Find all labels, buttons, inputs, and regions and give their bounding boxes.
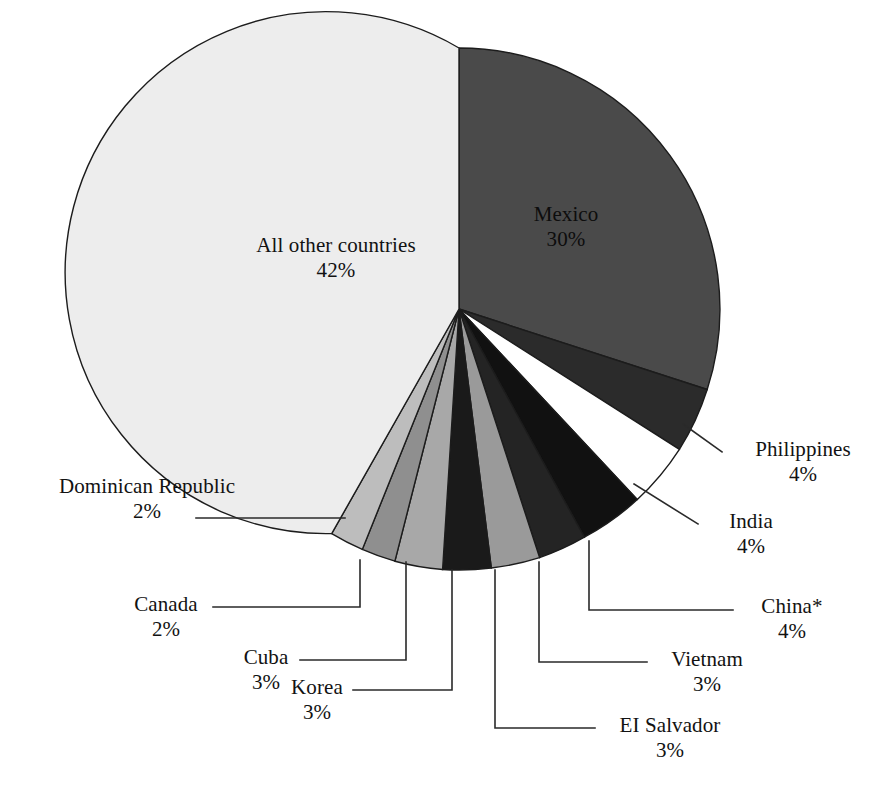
slice-label-canada-pct: 2% xyxy=(122,617,210,642)
slice-label-china: China* 4% xyxy=(740,594,844,644)
slice-label-cuba-name: Cuba xyxy=(236,645,296,670)
leader-line-canada xyxy=(213,560,360,607)
slice-label-china-pct: 4% xyxy=(740,619,844,644)
slice-label-philippines-name: Philippines xyxy=(730,437,876,462)
slice-label-mexico: Mexico 30% xyxy=(496,202,636,252)
slice-label-canada-name: Canada xyxy=(122,592,210,617)
leader-line-korea xyxy=(353,570,452,690)
slice-label-mexico-name: Mexico xyxy=(496,202,636,227)
slice-label-dominican-republic-name: Dominican Republic xyxy=(27,474,267,499)
slice-label-cuba: Cuba 3% xyxy=(236,645,296,695)
slice-label-all-other-countries: All other countries 42% xyxy=(216,233,456,283)
pie-chart-figure: Mexico 30% All other countries 42% Phili… xyxy=(0,0,882,792)
leader-line-vietnam xyxy=(539,562,647,662)
slice-label-india: India 4% xyxy=(706,509,796,559)
slice-label-philippines: Philippines 4% xyxy=(730,437,876,487)
slice-label-mexico-pct: 30% xyxy=(496,227,636,252)
slice-label-all-other-countries-pct: 42% xyxy=(216,258,456,283)
leader-line-philippines xyxy=(683,424,722,452)
slice-label-china-name: China* xyxy=(740,594,844,619)
slice-label-india-name: India xyxy=(706,509,796,534)
slice-label-philippines-pct: 4% xyxy=(730,462,876,487)
leader-line-cuba xyxy=(300,562,406,660)
leader-line-india xyxy=(634,484,698,524)
slice-label-all-other-countries-name: All other countries xyxy=(216,233,456,258)
slice-label-india-pct: 4% xyxy=(706,534,796,559)
slice-label-el-salvador-pct: 3% xyxy=(600,738,740,763)
slice-label-vietnam-pct: 3% xyxy=(651,672,763,697)
slice-label-el-salvador: EI Salvador 3% xyxy=(600,713,740,763)
slice-label-dominican-republic-pct: 2% xyxy=(27,499,267,524)
leader-line-el-salvador xyxy=(495,570,595,728)
slice-label-el-salvador-name: EI Salvador xyxy=(600,713,740,738)
slice-label-canada: Canada 2% xyxy=(122,592,210,642)
slice-label-vietnam-name: Vietnam xyxy=(651,647,763,672)
slice-label-vietnam: Vietnam 3% xyxy=(651,647,763,697)
slice-label-dominican-republic: Dominican Republic 2% xyxy=(27,474,267,524)
slice-label-cuba-pct: 3% xyxy=(236,670,296,695)
slice-label-korea-pct: 3% xyxy=(283,700,351,725)
